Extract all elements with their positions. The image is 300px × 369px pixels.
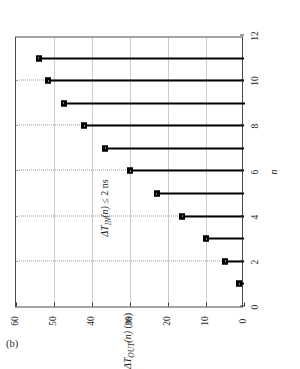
data-point-marker (45, 77, 51, 83)
tick-mark-n (240, 79, 244, 80)
stem-bar (84, 124, 244, 126)
axis-title-n: n (268, 169, 279, 174)
tick-label-n-10: 10 (250, 76, 260, 86)
tick-label-n-2: 2 (250, 259, 260, 264)
tick-mark-value (168, 302, 169, 306)
data-point-marker (127, 168, 133, 174)
tick-label-n-8: 8 (250, 124, 260, 129)
data-point-marker (81, 122, 87, 128)
tick-mark-n (240, 124, 244, 125)
data-point-marker (154, 190, 160, 196)
gridline-horizontal (54, 37, 55, 306)
tick-label-n-12: 12 (250, 31, 260, 41)
tick-mark-n (240, 215, 244, 216)
gridline-vertical (16, 260, 242, 261)
axis-title-value: ΔTOUT(n) (ns) (122, 313, 136, 369)
panel-caption: (b) (6, 338, 18, 349)
data-point-marker (222, 258, 228, 264)
tick-label-value-10: 10 (200, 316, 210, 326)
stem-bar (39, 57, 244, 59)
stem-bar (64, 102, 245, 104)
tick-label-value-40: 40 (86, 316, 96, 326)
stem-bar (157, 192, 244, 194)
data-point-marker (36, 55, 42, 61)
tick-label-value-60: 60 (10, 316, 20, 326)
data-point-marker (102, 145, 108, 151)
tick-mark-n (240, 34, 244, 35)
tick-label-value-0: 0 (238, 319, 248, 324)
tick-mark-value (92, 302, 93, 306)
tick-mark-value (130, 302, 131, 306)
stem-bar (130, 170, 244, 172)
data-point-marker (203, 235, 209, 241)
tick-label-n-4: 4 (250, 214, 260, 219)
tick-label-n-6: 6 (250, 169, 260, 174)
tick-mark-n (240, 170, 244, 171)
annotation-arg: (n) (99, 206, 110, 218)
stem-bar (182, 215, 244, 217)
constraint-annotation: ΔTIN(n) ≤ 2 ns (99, 179, 113, 237)
plot-frame (15, 36, 243, 307)
stem-bar (48, 79, 244, 81)
tick-mark-n (240, 260, 244, 261)
data-point-marker (179, 213, 185, 219)
tick-mark-value (16, 302, 17, 306)
tick-mark-value (54, 302, 55, 306)
annotation-relation: ≤ 2 ns (99, 179, 110, 203)
tick-label-n-0: 0 (250, 305, 260, 310)
annotation-subscript: IN (104, 217, 113, 225)
gridline-horizontal (168, 37, 169, 306)
tick-mark-value (206, 302, 207, 306)
stem-bar (206, 237, 244, 239)
gridline-horizontal (206, 37, 207, 306)
data-point-marker (61, 100, 67, 106)
gridline-horizontal (92, 37, 93, 306)
chart-rotor (15, 36, 243, 307)
data-point-marker (236, 280, 242, 286)
tick-label-value-50: 50 (48, 316, 58, 326)
tick-label-value-20: 20 (162, 316, 172, 326)
tick-mark-value (244, 302, 245, 306)
stem-bar (105, 147, 244, 149)
